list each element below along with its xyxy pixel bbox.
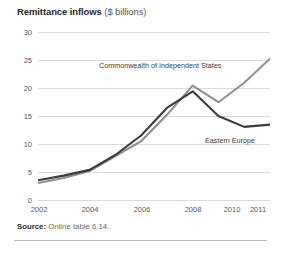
series-label-eastern-europe: Eastern Europe [205,137,255,145]
y-tick-10: 10 [10,141,32,149]
chart-title-units: ($ billions) [104,6,146,17]
x-tick-2008: 2008 [178,206,208,214]
y-tick-0: 0 [10,197,32,205]
plot-area [38,30,270,202]
x-tick-2002: 2002 [24,206,54,214]
x-tick-2011: 2011 [243,206,273,214]
source-label: Source: [17,222,46,231]
y-tick-15: 15 [10,113,32,121]
series-label-commonwealth-of-independent-states: Commonwealth of Independent States [99,62,221,70]
x-tick-2004: 2004 [75,206,105,214]
y-tick-5: 5 [10,169,32,177]
remittance-inflows-figure: Remittance inflows ($ billions) 30 25 20… [0,0,285,253]
bottom-divider [14,240,267,241]
chart-plot-svg [38,30,270,202]
source-note: Source: Online table 6.14. [17,222,109,232]
y-tick-25: 25 [10,57,32,65]
source-text: Online table 6.14. [48,222,109,231]
x-tick-2006: 2006 [127,206,157,214]
y-tick-30: 30 [10,29,32,37]
y-tick-20: 20 [10,85,32,93]
chart-title-bold: Remittance inflows [17,6,102,17]
chart-title: Remittance inflows ($ billions) [17,6,146,18]
